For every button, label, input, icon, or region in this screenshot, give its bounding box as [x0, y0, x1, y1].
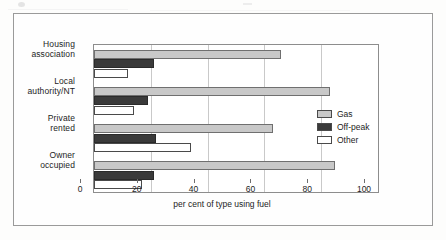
- chart-legend: GasOff-peakOther: [317, 108, 369, 147]
- bar-off-peak: [94, 96, 148, 105]
- x-tick-label: 100: [344, 184, 384, 194]
- x-tick-label: 0: [60, 184, 100, 194]
- category-label: Privaterented: [0, 113, 75, 133]
- category-label: Owneroccupied: [0, 150, 75, 170]
- legend-item: Off-peak: [317, 121, 369, 133]
- x-tick-20: [137, 179, 138, 183]
- category-label-line: Owner: [0, 150, 75, 160]
- scan-artifact-speck: [18, 2, 25, 7]
- bar-gas: [94, 87, 330, 96]
- bar-other: [94, 69, 128, 78]
- legend-swatch-gas: [317, 110, 332, 118]
- x-tick-0: [80, 179, 81, 183]
- x-tick-80: [307, 179, 308, 183]
- bar-other: [94, 143, 191, 152]
- scan-surface: HousingassociationLocalauthority/NTPriva…: [0, 0, 446, 240]
- category-label-line: authority/NT: [0, 86, 75, 96]
- bar-row: [94, 96, 378, 105]
- x-tick-label: 60: [230, 184, 270, 194]
- legend-label: Gas: [337, 109, 353, 119]
- category-label-line: association: [0, 49, 75, 59]
- bar-gas: [94, 161, 335, 170]
- category-label: Housingassociation: [0, 39, 75, 59]
- bar-row: [94, 50, 378, 59]
- bar-gas: [94, 124, 273, 133]
- legend-swatch-off-peak: [317, 123, 332, 131]
- category-label-line: Housing: [0, 39, 75, 49]
- legend-label: Other: [337, 135, 358, 145]
- bar-gas: [94, 50, 281, 59]
- figure-frame: HousingassociationLocalauthority/NTPriva…: [13, 13, 433, 226]
- category-label-line: Local: [0, 76, 75, 86]
- bar-off-peak: [94, 134, 156, 143]
- legend-item: Other: [317, 134, 369, 146]
- legend-label: Off-peak: [337, 122, 369, 132]
- x-tick-40: [194, 179, 195, 183]
- bar-other: [94, 106, 134, 115]
- legend-swatch-other: [317, 136, 332, 144]
- legend-item: Gas: [317, 108, 369, 120]
- bar-row: [94, 69, 378, 78]
- category-label-line: rented: [0, 123, 75, 133]
- scan-artifact-line: [150, 10, 350, 11]
- x-tick-label: 20: [117, 184, 157, 194]
- category-label-line: Private: [0, 113, 75, 123]
- x-axis-title: per cent of type using fuel: [79, 199, 365, 209]
- bar-row: [94, 87, 378, 96]
- bar-off-peak: [94, 59, 154, 68]
- x-tick-label: 40: [174, 184, 214, 194]
- scan-artifact-speck: [243, 3, 252, 5]
- bar-group: [94, 45, 378, 82]
- scan-artifact-line: [8, 9, 128, 10]
- x-tick-60: [250, 179, 251, 183]
- bar-off-peak: [94, 171, 154, 180]
- bar-row: [94, 161, 378, 170]
- bar-row: [94, 59, 378, 68]
- x-tick-100: [364, 179, 365, 183]
- category-label-line: occupied: [0, 160, 75, 170]
- category-label: Localauthority/NT: [0, 76, 75, 96]
- x-tick-label: 80: [287, 184, 327, 194]
